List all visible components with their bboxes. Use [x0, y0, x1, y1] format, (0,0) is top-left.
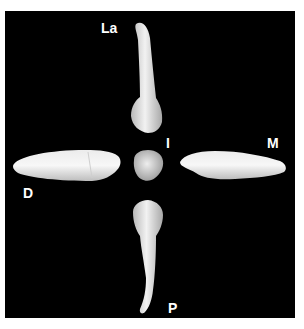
- label-palatal: P: [168, 301, 177, 315]
- tooth-labial-view: [131, 23, 162, 133]
- tooth-incisal-view: [134, 150, 163, 181]
- label-mesial: M: [267, 136, 279, 150]
- teeth-illustration: [0, 0, 304, 329]
- label-incisal: I: [166, 136, 170, 150]
- label-labial: La: [101, 21, 117, 35]
- label-distal: D: [23, 186, 33, 200]
- tooth-mesial-view: [180, 151, 286, 179]
- tooth-distal-view: [13, 150, 121, 181]
- tooth-palatal-view: [133, 200, 163, 313]
